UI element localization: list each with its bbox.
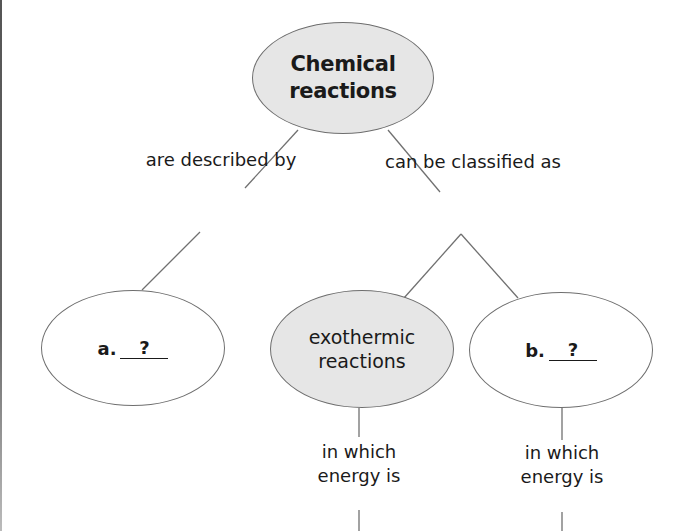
- blank-b-answer[interactable]: ?: [549, 340, 597, 361]
- node-b-blank: b. ?: [469, 292, 653, 408]
- link-label-described-by: are described by: [136, 148, 306, 172]
- link-label-described-by-text: are described by: [146, 149, 297, 170]
- blank-b-prefix: b.: [525, 340, 545, 361]
- blank-b[interactable]: b. ?: [525, 340, 597, 361]
- line-classified-to-b: [461, 234, 518, 298]
- link-label-exo-energy: in which energy is: [304, 440, 414, 488]
- node-a-blank: a. ?: [41, 290, 225, 406]
- node-exothermic-line2: reactions: [318, 349, 405, 373]
- line-classified-to-exo: [404, 234, 461, 298]
- node-chemical-reactions-line2: reactions: [289, 78, 397, 105]
- link-label-b-energy-line2: energy is: [507, 465, 617, 489]
- link-label-b-energy: in which energy is: [507, 441, 617, 489]
- link-label-exo-energy-line1: in which: [304, 440, 414, 464]
- link-label-exo-energy-line2: energy is: [304, 464, 414, 488]
- link-label-classified-as: can be classified as: [376, 150, 570, 174]
- line-described-to-a: [142, 232, 200, 290]
- blank-a[interactable]: a. ?: [98, 338, 169, 359]
- link-label-classified-as-text: can be classified as: [385, 151, 561, 172]
- blank-a-answer[interactable]: ?: [120, 338, 168, 359]
- node-chemical-reactions-line1: Chemical: [290, 51, 395, 78]
- link-label-b-energy-line1: in which: [507, 441, 617, 465]
- node-exothermic-reactions: exothermic reactions: [270, 290, 454, 408]
- blank-a-prefix: a.: [98, 338, 117, 359]
- node-chemical-reactions: Chemical reactions: [252, 22, 434, 134]
- node-exothermic-line1: exothermic: [309, 325, 416, 349]
